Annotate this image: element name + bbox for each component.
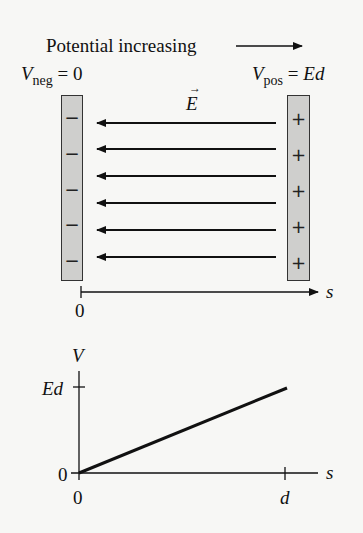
graph-y-axis-label: V	[72, 346, 84, 365]
v-neg-value: = 0	[58, 63, 83, 84]
minus-sign: −	[62, 181, 82, 199]
s-axis	[81, 286, 318, 298]
v-pos-equals: =	[288, 63, 303, 84]
v-pos-symbol: V	[252, 63, 264, 84]
potential-increasing-label: Potential increasing	[46, 36, 196, 55]
graph-y-tick-ed: Ed	[42, 379, 63, 398]
minus-sign: −	[62, 216, 82, 234]
v-pos-subscript: pos	[264, 73, 283, 88]
graph-y-tick-zero: 0	[58, 465, 68, 484]
positive-plate: + + + + +	[287, 95, 310, 281]
graph-x-axis-label: s	[326, 463, 333, 482]
field-label: E	[186, 94, 198, 113]
s-axis-label: s	[326, 282, 333, 301]
graph-x-tick-d: d	[280, 488, 290, 507]
v-neg-subscript: neg	[33, 73, 53, 88]
s-axis-origin-label: 0	[75, 301, 85, 320]
plus-sign: +	[288, 182, 309, 200]
v-neg-label: Vneg = 0	[21, 64, 83, 88]
minus-sign: −	[62, 109, 82, 127]
graph-x-tick-zero: 0	[73, 488, 83, 507]
plus-sign: +	[288, 218, 309, 236]
field-arrows	[97, 123, 276, 257]
negative-plate: − − − − − −	[61, 95, 83, 281]
plus-sign: +	[288, 254, 309, 272]
potential-line	[79, 388, 287, 473]
minus-sign: −	[62, 252, 82, 270]
minus-sign: −	[62, 145, 82, 163]
v-pos-label: Vpos = Ed	[252, 64, 324, 88]
plus-sign: +	[288, 110, 309, 128]
v-neg-symbol: V	[21, 63, 33, 84]
v-pos-value: Ed	[303, 63, 324, 84]
plus-sign: +	[288, 146, 309, 164]
